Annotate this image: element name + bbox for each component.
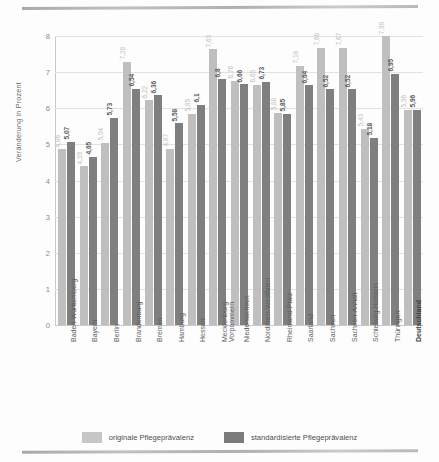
bar[interactable]: 6,64 [305,85,313,325]
bar[interactable]: 6,1 [197,105,205,325]
x-axis-label-text: Rheinland-Pfalz [286,293,293,342]
bar-value-label: 6,22 [142,85,149,98]
legend-label: originale Pflegeprävalenz [109,433,194,442]
bar[interactable]: 4,39 [80,166,88,325]
legend-label: standardisierte Pflegeprävalenz [251,433,357,442]
bar-value-label: 7,67 [336,33,343,46]
bar[interactable]: 7,68 [317,48,325,325]
bar[interactable]: 4,65 [89,157,97,325]
bar-value-label: 5,07 [65,127,72,140]
x-axis-label: Sachsen [315,340,337,422]
bar-group: 7,676,52 [337,36,359,325]
plot-area: 012345678 4,865,074,394,655,045,737,286,… [55,36,423,325]
x-axis-label: Bremen [142,340,164,422]
y-axis-title: Veränderung in Prozent [14,22,23,162]
x-axis-label-text: Baden-Württemberg [70,279,77,342]
bar[interactable]: 5,96 [413,110,421,325]
bar[interactable]: 5,73 [110,118,118,325]
bar-value-label: 6,52 [345,75,352,88]
x-axis-label-text: Deutschland [415,300,422,342]
bar[interactable]: 6,76 [231,81,239,325]
y-axis-tick-7: 7 [46,68,50,77]
bar[interactable]: 6,22 [145,100,153,325]
bar[interactable]: 7,28 [123,62,131,325]
bar[interactable]: 6,52 [326,89,334,325]
bar-group: 6,226,36 [142,36,164,325]
legend-item[interactable]: standardisierte Pflegeprävalenz [224,432,357,443]
x-axis-label: Schleswig-Holstein [358,340,380,422]
x-axis-label: Sachsen-Anhalt [337,340,359,422]
bar-group: 5,045,73 [99,36,121,325]
x-axis-label-text: Bremen [156,317,163,342]
x-axis-label: Berlin [99,340,121,422]
x-axis-label-text: Brandenburg [135,302,142,342]
scan-artifact-top-band [22,5,418,10]
legend-item[interactable]: originale Pflegeprävalenz [82,432,194,443]
bar[interactable]: 6,52 [348,89,356,325]
x-axis-label: Brandenburg [121,340,143,422]
bar[interactable]: 6,8 [218,79,226,325]
y-axis-tick-4: 4 [46,176,50,185]
bar-value-label: 5,85 [185,99,192,112]
bar-value-label: 7,28 [120,47,127,60]
bar-group: 7,286,54 [121,36,143,325]
legend-swatch [224,432,244,443]
x-axis-label: Mecklenburg-Vorpommern [207,340,229,422]
bar[interactable]: 7,63 [209,49,217,325]
x-axis-label: Saarland [294,340,316,422]
bar-value-label: 4,65 [86,142,93,155]
bar[interactable]: 5,88 [274,113,282,325]
y-axis-tick-6: 6 [46,104,50,113]
x-axis-label-text: Sachsen [329,315,336,342]
x-axis-label: Baden-Württemberg [56,340,78,422]
y-axis-tick-5: 5 [46,140,50,149]
bar-value-label: 4,87 [164,134,171,147]
bar-value-label: 4,39 [77,152,84,165]
bar[interactable]: 4,86 [58,149,66,325]
bar-group: 7,996,95 [380,36,402,325]
x-axis-label-text: Nordrhein-Westfalen [264,278,271,342]
gridline-0: 0 [55,325,423,326]
bar[interactable]: 5,58 [175,123,183,325]
bar[interactable]: 7,99 [382,36,390,325]
bar-group: 5,885,85 [272,36,294,325]
bar-value-label: 5,88 [272,98,279,111]
bar[interactable]: 6,65 [253,85,261,325]
bar[interactable]: 6,36 [154,95,162,325]
x-axis-label-text: Saarland [307,314,314,342]
bar-group: 7,686,52 [315,36,337,325]
x-axis-label: Rheinland-Pfalz [272,340,294,422]
bar[interactable]: 4,87 [166,149,174,325]
y-axis-tick-8: 8 [46,32,50,41]
x-axis-label-text: Sachsen-Anhalt [351,293,358,342]
x-axis-label-text: Hessen [199,318,206,342]
scanned-page: Veränderung in Prozent 012345678 4,865,0… [0,0,439,462]
bar[interactable]: 6,54 [132,89,140,325]
bar-group: 5,965,96 [402,36,424,325]
x-axis-label-text: Niedersachsen [243,295,250,342]
bar[interactable]: 5,04 [101,143,109,325]
y-axis-tick-2: 2 [46,248,50,257]
x-axis-category-labels: Baden-WürttembergBayernBerlinBrandenburg… [56,340,423,422]
bar[interactable]: 6,66 [240,84,248,325]
bar[interactable]: 7,18 [296,66,304,325]
bar-value-label: 6,65 [250,70,257,83]
y-axis-tick-1: 1 [46,284,50,293]
bar-value-label: 6,64 [302,70,309,83]
bar[interactable]: 6,95 [391,74,399,325]
bar-group: 4,875,58 [164,36,186,325]
bar[interactable]: 5,43 [361,129,369,325]
legend-swatch [82,432,102,443]
bar[interactable]: 7,67 [339,48,347,325]
x-axis-label-text: Mecklenburg-Vorpommern [221,300,236,342]
bar-value-label: 5,18 [367,123,374,136]
y-axis-tick-3: 3 [46,212,50,221]
bar[interactable]: 5,96 [404,110,412,325]
bar-group: 5,856,1 [186,36,208,325]
bar-value-label: 5,96 [410,95,417,108]
bar[interactable]: 5,85 [188,114,196,325]
x-axis-label: Deutschland [402,340,424,422]
bar-group: 6,766,66 [229,36,251,325]
bar-value-label: 5,43 [358,114,365,127]
bar-value-label: 5,04 [99,128,106,141]
